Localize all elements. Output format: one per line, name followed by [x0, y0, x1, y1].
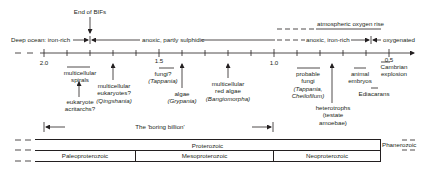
event-ediacarans: Ediacarans [356, 90, 392, 97]
ocean-state-anoxic-iron-rich: anoxic, iron-rich [306, 36, 350, 43]
era-paleoproterozoic: Paleoproterozoic [35, 150, 136, 161]
event-cambrian-explosion: Cambrian explosion [376, 63, 412, 78]
axis-label-1.0: 1.0 [266, 59, 282, 66]
event-grypania: algae (Grypania) [164, 90, 200, 105]
event-bangiomorpha: multicellular red algae (Bangiomorpha) [204, 80, 252, 102]
ocean-state-oxygenated: oxygenated [383, 36, 415, 43]
axis-label-2.0: 2.0 [36, 59, 52, 66]
ocean-state-iron-rich: Deep ocean: iron-rich [11, 36, 70, 43]
eon-phanerozoic: Phanerozoic [382, 141, 416, 148]
event-qingshania: multicellular eukaryotes? (Qingshania) [92, 82, 136, 104]
ocean-state-partly-sulphidic: anoxic, partly sulphidic [142, 36, 204, 43]
era-neoproterozoic: Neoproterozoic [274, 150, 380, 161]
event-animal-embryos: animal embryos [344, 70, 376, 85]
era-row: Paleoproterozoic Mesoproterozoic Neoprot… [35, 150, 381, 162]
boring-billion-label: The 'boring billion' [120, 123, 200, 130]
era-mesoproterozoic: Mesoproterozoic [136, 150, 274, 161]
axis-label-1.5: 1.5 [151, 57, 167, 64]
event-probable-fungi: probable fungi (Tappania, Cheilofilum) [288, 70, 328, 100]
event-heterotrophs: heterotrophs (testate amoebae) [312, 104, 354, 126]
end-of-bifs-label: End of BIFs [72, 8, 108, 15]
atmospheric-oxygen-rise-label: atmospheric oxygen rise [317, 20, 384, 27]
event-tappania: fungi? (Tappania) [145, 70, 181, 85]
